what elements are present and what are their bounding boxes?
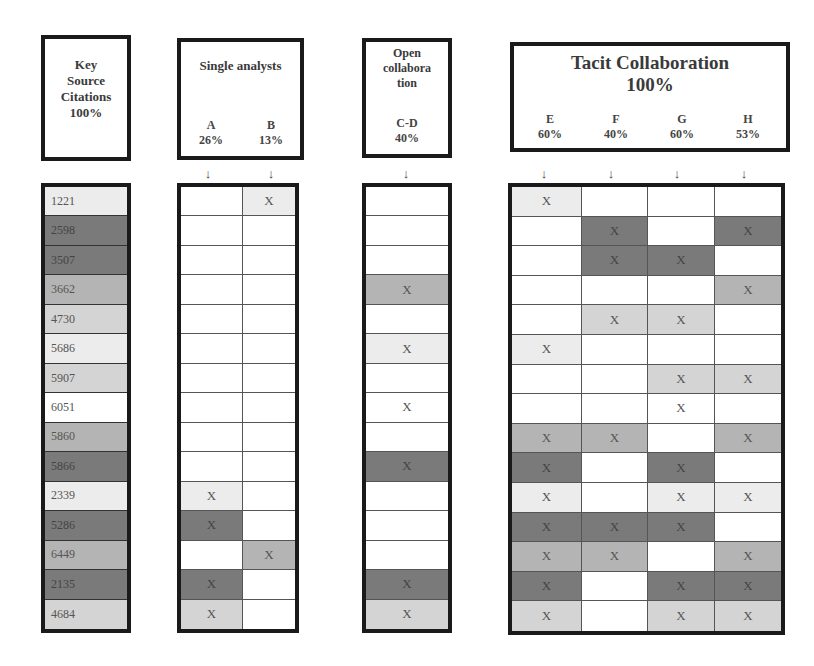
empty-cell	[243, 364, 295, 393]
empty-cell	[181, 452, 243, 481]
marked-cell: X	[366, 600, 448, 629]
marked-cell: X	[366, 334, 448, 363]
open-collaboration-grid: XXXXXX	[362, 183, 452, 633]
marked-cell: X	[582, 542, 648, 572]
citation-cell: 4730	[45, 305, 127, 334]
single-analysts-header: Single analysts A 26% B 13%	[177, 38, 304, 160]
key-header-pct: 100%	[45, 105, 127, 121]
empty-cell	[181, 216, 243, 245]
marked-cell: X	[366, 452, 448, 481]
empty-cell	[366, 246, 448, 275]
empty-cell	[366, 187, 448, 216]
col-label: C-D	[366, 116, 448, 131]
empty-cell	[582, 572, 648, 602]
empty-cell	[181, 305, 243, 334]
empty-cell	[366, 216, 448, 245]
analyst-b-label: B 13%	[247, 118, 295, 148]
marked-cell: X	[512, 542, 582, 572]
col-pct: 60%	[660, 127, 704, 142]
empty-cell	[648, 335, 715, 365]
empty-cell	[715, 513, 781, 543]
arrow-down-icon: ↓	[263, 167, 279, 181]
empty-cell	[366, 482, 448, 511]
marked-cell: X	[648, 601, 715, 631]
open-header-line: collabora	[366, 61, 448, 76]
citation-cell: 2598	[45, 216, 127, 245]
empty-cell	[181, 364, 243, 393]
tacit-f-label: F 40%	[594, 112, 638, 142]
key-citations-column: 1221259835073662473056865907605158605866…	[41, 183, 131, 633]
empty-cell	[715, 335, 781, 365]
empty-cell	[512, 305, 582, 335]
marked-cell: X	[512, 424, 582, 454]
key-header-line: Source	[45, 73, 127, 89]
empty-cell	[181, 334, 243, 363]
marked-cell: X	[582, 305, 648, 335]
empty-cell	[582, 365, 648, 395]
empty-cell	[512, 246, 582, 276]
citation-cell: 5907	[45, 364, 127, 393]
col-pct: 26%	[187, 133, 235, 148]
empty-cell	[243, 246, 295, 275]
empty-cell	[243, 452, 295, 481]
marked-cell: X	[582, 513, 648, 543]
col-label: G	[660, 112, 704, 127]
empty-cell	[582, 394, 648, 424]
empty-cell	[243, 216, 295, 245]
marked-cell: X	[715, 365, 781, 395]
marked-cell: X	[715, 601, 781, 631]
arrow-down-icon: ↓	[669, 167, 685, 181]
empty-cell	[582, 601, 648, 631]
citation-cell: 3662	[45, 275, 127, 304]
tacit-collaboration-grid: XXXXXXXXXXXXXXXXXXXXXXXXXXXXXXXX	[508, 183, 785, 635]
tacit-title: Tacit Collaboration	[514, 52, 786, 74]
marked-cell: X	[648, 305, 715, 335]
citation-cell: 5286	[45, 511, 127, 540]
arrow-down-icon: ↓	[398, 167, 414, 181]
empty-cell	[366, 511, 448, 540]
arrow-down-icon: ↓	[200, 167, 216, 181]
empty-cell	[243, 423, 295, 452]
citation-cell: 5866	[45, 452, 127, 481]
empty-cell	[366, 541, 448, 570]
marked-cell: X	[715, 276, 781, 306]
empty-cell	[715, 187, 781, 217]
empty-cell	[715, 394, 781, 424]
empty-cell	[181, 187, 243, 216]
marked-cell: X	[366, 570, 448, 599]
arrow-down-icon: ↓	[536, 167, 552, 181]
tacit-g-label: G 60%	[660, 112, 704, 142]
empty-cell	[715, 246, 781, 276]
marked-cell: X	[512, 453, 582, 483]
col-pct: 40%	[366, 131, 448, 146]
tacit-pct: 100%	[514, 74, 786, 96]
empty-cell	[181, 246, 243, 275]
marked-cell: X	[512, 572, 582, 602]
marked-cell: X	[715, 424, 781, 454]
empty-cell	[648, 542, 715, 572]
empty-cell	[582, 453, 648, 483]
marked-cell: X	[243, 541, 295, 570]
citation-cell: 6051	[45, 393, 127, 422]
marked-cell: X	[181, 570, 243, 599]
marked-cell: X	[715, 483, 781, 513]
empty-cell	[648, 217, 715, 247]
open-header-line: tion	[366, 76, 448, 91]
single-analysts-title: Single analysts	[181, 58, 300, 74]
open-cd-label: C-D 40%	[366, 116, 448, 146]
empty-cell	[243, 511, 295, 540]
marked-cell: X	[648, 572, 715, 602]
citation-cell: 1221	[45, 187, 127, 216]
open-header-line: Open	[366, 46, 448, 61]
empty-cell	[181, 393, 243, 422]
col-pct: 13%	[247, 133, 295, 148]
marked-cell: X	[243, 187, 295, 216]
empty-cell	[366, 364, 448, 393]
citation-cell: 2339	[45, 482, 127, 511]
col-label: E	[528, 112, 572, 127]
marked-cell: X	[648, 246, 715, 276]
key-citations-header: Key Source Citations 100%	[41, 35, 131, 161]
empty-cell	[715, 305, 781, 335]
marked-cell: X	[181, 482, 243, 511]
empty-cell	[366, 423, 448, 452]
